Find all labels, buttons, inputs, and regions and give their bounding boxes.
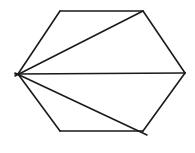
hexagon-side-DE xyxy=(143,73,185,131)
diagonal-1 xyxy=(15,11,143,76)
diagonal-3 xyxy=(15,73,147,135)
hexagon-diagram xyxy=(0,0,195,153)
hexagon-diagonals xyxy=(15,11,185,135)
diagonal-2 xyxy=(15,73,185,74)
hexagon-side-FA xyxy=(18,74,60,131)
hexagon-side-CD xyxy=(143,11,185,73)
